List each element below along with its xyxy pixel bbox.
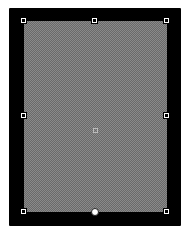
rotate-handle-bottom-middle[interactable] [91,208,99,216]
resize-handle-top-middle[interactable] [91,17,98,24]
resize-handle-middle-right[interactable] [163,112,170,119]
center-point-icon [93,128,98,133]
resize-handle-bottom-right[interactable] [163,208,170,215]
resize-handle-bottom-left[interactable] [20,208,27,215]
resize-handle-top-right[interactable] [163,17,170,24]
selected-shape[interactable] [24,21,167,212]
resize-handle-middle-left[interactable] [20,112,27,119]
resize-handle-top-left[interactable] [20,17,27,24]
